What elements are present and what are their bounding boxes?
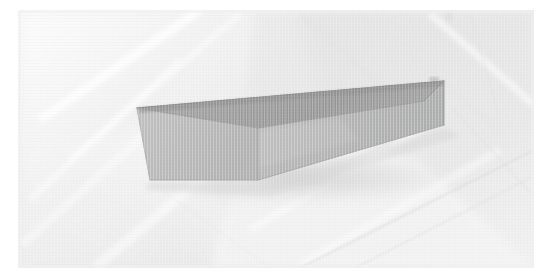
photo-frame xyxy=(18,10,534,268)
photo-global-texture xyxy=(18,10,534,268)
screenshot-canvas: photograph of a grey rectangular block r… xyxy=(0,0,552,280)
photo-scene xyxy=(0,0,552,280)
